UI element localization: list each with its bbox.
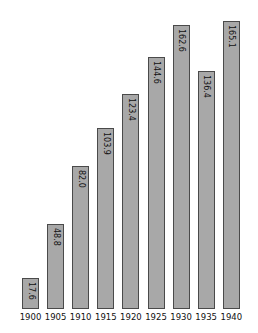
bar-1920: 123.4 bbox=[122, 94, 139, 309]
bar-value-label: 136.4 bbox=[202, 75, 211, 98]
bar-1940: 165.1 bbox=[223, 21, 240, 309]
bar-1910: 82.0 bbox=[72, 166, 89, 309]
bar-1925: 144.6 bbox=[148, 57, 165, 309]
bar-1905: 48.8 bbox=[47, 224, 64, 309]
bar-1930: 162.6 bbox=[173, 25, 190, 309]
bar-value-label: 103.9 bbox=[101, 132, 110, 155]
bar-value-label: 162.6 bbox=[177, 29, 186, 52]
bar-1935: 136.4 bbox=[198, 71, 215, 309]
bar-value-label: 48.8 bbox=[51, 228, 60, 246]
bar-value-label: 17.6 bbox=[26, 282, 35, 300]
bar-chart: 17.6190048.8190582.01910103.91915123.419… bbox=[0, 0, 258, 333]
bar-value-label: 82.0 bbox=[76, 170, 85, 188]
bar-value-label: 123.4 bbox=[126, 98, 135, 121]
bar-value-label: 165.1 bbox=[227, 25, 236, 48]
bar-1900: 17.6 bbox=[22, 278, 39, 309]
bar-value-label: 144.6 bbox=[152, 61, 161, 84]
x-tick-label: 1940 bbox=[216, 312, 246, 322]
bar-1915: 103.9 bbox=[97, 128, 114, 309]
